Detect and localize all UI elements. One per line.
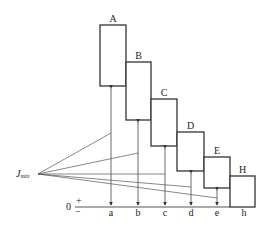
axis-label-e: e (215, 207, 220, 218)
label-D: D (187, 120, 194, 131)
diagram: A B C D E H Jmin 0 + − a b c d e h (0, 0, 271, 228)
label-A: A (109, 13, 117, 24)
axis-label-b: b (136, 207, 141, 218)
box-A (100, 25, 126, 86)
jmin-label: Jmin (16, 168, 29, 179)
axis-label-c: c (163, 207, 168, 218)
label-H: H (239, 164, 246, 175)
label-E: E (214, 145, 220, 156)
axis-label-d: d (189, 207, 194, 218)
box-C (151, 99, 177, 146)
box-B (126, 62, 151, 120)
minus-label: − (75, 206, 81, 217)
plus-label: + (76, 195, 82, 206)
axis-label-a: a (109, 207, 114, 218)
box-D (177, 132, 204, 171)
zero-label: 0 (66, 201, 71, 212)
box-E (204, 157, 230, 188)
box-H (230, 176, 255, 207)
label-B: B (135, 50, 142, 61)
label-C: C (161, 87, 168, 98)
axis-label-h: h (242, 207, 247, 218)
